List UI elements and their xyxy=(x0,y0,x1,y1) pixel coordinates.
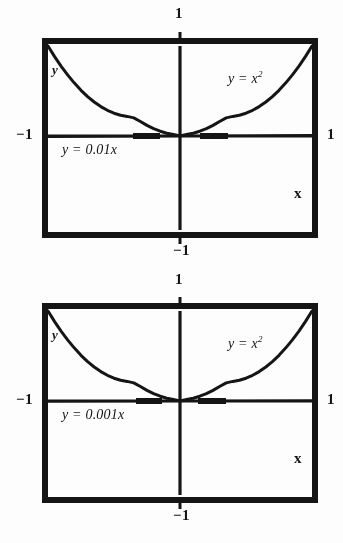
parabola-right-branch xyxy=(180,46,312,136)
figure-page: 1 −1 −1 1 y x y = x2 y = 0.01x xyxy=(0,0,343,543)
line-equation-label: y = 0.001x xyxy=(62,408,124,422)
y-axis-label: y xyxy=(52,328,58,341)
shallow-line-0-001x xyxy=(48,401,312,402)
tick-label-bottom: −1 xyxy=(173,243,190,258)
y-axis-label: y xyxy=(52,63,58,76)
curve-equation-base: y = x xyxy=(228,336,258,351)
curve-equation-exponent: 2 xyxy=(258,334,263,344)
tick-label-right: 1 xyxy=(327,127,335,142)
plot-area-bottom: 1 −1 −1 1 y x y = x2 y = 0.001x xyxy=(0,271,343,542)
tick-label-bottom: −1 xyxy=(173,508,190,523)
tick-label-top: 1 xyxy=(175,272,183,287)
tick-label-left: −1 xyxy=(16,392,33,407)
plot-svg-bottom xyxy=(0,271,343,542)
tick-label-left: −1 xyxy=(16,127,33,142)
parabola-left-branch xyxy=(48,311,180,401)
plot-area-top: 1 −1 −1 1 y x y = x2 y = 0.01x xyxy=(0,0,343,271)
curve-equation-label: y = x2 xyxy=(228,335,263,351)
tick-label-right: 1 xyxy=(327,392,335,407)
parabola-right-branch xyxy=(180,311,312,401)
curve-equation-label: y = x2 xyxy=(228,70,263,86)
tick-label-top: 1 xyxy=(175,6,183,21)
figure-parabola-0-01x: 1 −1 −1 1 y x y = x2 y = 0.01x xyxy=(0,0,343,271)
x-axis-label: x xyxy=(294,186,302,201)
plot-svg-top xyxy=(0,0,343,271)
line-equation-label: y = 0.01x xyxy=(62,143,117,157)
parabola-left-branch xyxy=(48,46,180,136)
x-axis-label: x xyxy=(294,451,302,466)
figure-parabola-0-001x: 1 −1 −1 1 y x y = x2 y = 0.001x xyxy=(0,271,343,543)
curve-equation-exponent: 2 xyxy=(258,69,263,79)
curve-equation-base: y = x xyxy=(228,71,258,86)
